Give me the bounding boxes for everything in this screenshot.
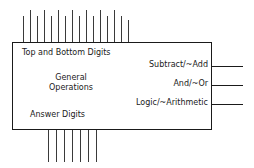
input-bus-line bbox=[23, 16, 24, 42]
output-bus-answer-digits bbox=[0, 130, 254, 168]
input-bus-line bbox=[51, 16, 52, 42]
label-and-not-or: And/~Or bbox=[173, 79, 208, 89]
input-bus-line bbox=[93, 16, 94, 42]
input-bus-line bbox=[86, 10, 87, 42]
input-bus-line bbox=[30, 10, 31, 42]
output-bus-line bbox=[72, 130, 73, 162]
label-subtract-not-add: Subtract/~Add bbox=[149, 60, 208, 70]
input-bus-line bbox=[128, 20, 129, 42]
input-bus-line bbox=[79, 16, 80, 42]
label-general-operations: General Operations bbox=[36, 73, 106, 93]
input-bus-line bbox=[100, 10, 101, 42]
input-bus-line bbox=[65, 16, 66, 42]
label-logic-not-arithmetic: Logic/~Arithmetic bbox=[136, 98, 208, 108]
diagram-canvas: Top and Bottom Digits General Operations… bbox=[0, 0, 254, 168]
input-bus-line bbox=[114, 10, 115, 42]
input-bus-line bbox=[37, 16, 38, 42]
label-general-operations-line1: General bbox=[36, 73, 106, 83]
input-bus-top-bottom-digits bbox=[0, 0, 254, 42]
output-bus-line bbox=[64, 130, 65, 162]
label-general-operations-line2: Operations bbox=[36, 83, 106, 93]
label-answer-digits: Answer Digits bbox=[30, 110, 85, 120]
wire-logic-not-arithmetic bbox=[212, 104, 243, 105]
input-bus-line bbox=[121, 16, 122, 42]
input-bus-line bbox=[58, 10, 59, 42]
input-bus-line bbox=[107, 16, 108, 42]
output-bus-line bbox=[96, 130, 97, 162]
label-top-and-bottom-digits: Top and Bottom Digits bbox=[22, 48, 111, 58]
output-bus-line bbox=[56, 130, 57, 162]
output-bus-line bbox=[48, 130, 49, 162]
input-bus-line bbox=[44, 10, 45, 42]
output-bus-line bbox=[80, 130, 81, 162]
input-bus-line bbox=[72, 10, 73, 42]
wire-and-not-or bbox=[212, 85, 243, 86]
output-bus-line bbox=[88, 130, 89, 162]
wire-subtract-not-add bbox=[212, 66, 243, 67]
